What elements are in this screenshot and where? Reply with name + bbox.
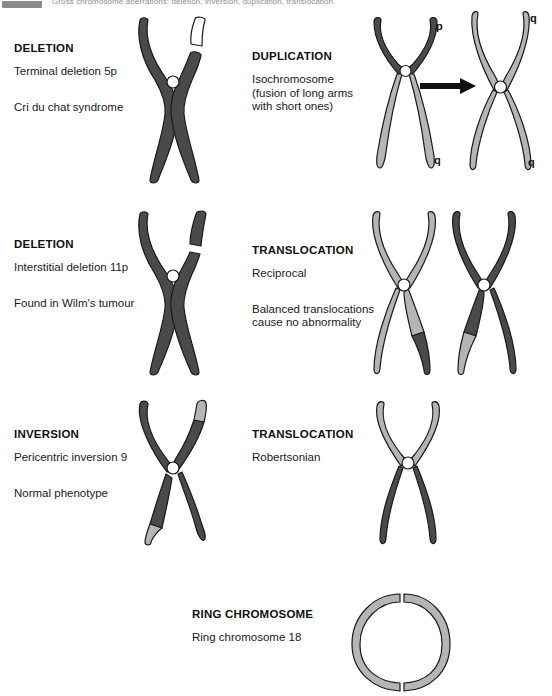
q-arm-left bbox=[377, 74, 402, 168]
centromere bbox=[398, 279, 410, 291]
q-arm-right-translocated-segment bbox=[412, 332, 430, 375]
q-arm-lower-left bbox=[470, 90, 497, 170]
q-arm-left-proximal bbox=[150, 474, 172, 528]
chromosome-ring bbox=[348, 592, 454, 696]
chromatid-right-proximal bbox=[190, 211, 206, 246]
section-duplication: DUPLICATION Isochromosome (fusion of lon… bbox=[252, 50, 392, 114]
label-q-arm-bottom: q bbox=[528, 156, 535, 168]
p-arm-left bbox=[373, 212, 403, 288]
section-line-3: with short ones) bbox=[252, 100, 392, 114]
p-arm-left bbox=[377, 402, 406, 466]
q-arm-upper-right bbox=[502, 12, 529, 90]
section-heading: DUPLICATION bbox=[252, 50, 392, 62]
chromosome-reciprocal-a bbox=[368, 208, 442, 384]
q-arm-right bbox=[490, 288, 516, 374]
chromosome-reciprocal-b bbox=[448, 208, 522, 384]
label-q-arm-top: q bbox=[530, 12, 537, 24]
label-q-arm: q bbox=[434, 154, 441, 166]
centromere bbox=[400, 66, 411, 77]
label-p-arm: p bbox=[436, 20, 443, 32]
p-arm-right bbox=[485, 212, 515, 288]
p-arm-right bbox=[410, 402, 439, 466]
p-arm-right bbox=[405, 212, 435, 288]
chromosome-terminal-deletion bbox=[132, 14, 218, 190]
centromere bbox=[478, 279, 490, 291]
p-arm-right-inverted-segment bbox=[194, 400, 206, 422]
q-arm-left bbox=[380, 466, 403, 544]
p-arm-left bbox=[139, 401, 172, 472]
ring-arc-right bbox=[404, 594, 450, 691]
q-arm-left-proximal bbox=[464, 288, 484, 336]
chromosome-robertsonian bbox=[370, 398, 450, 552]
chromosome-interstitial-deletion bbox=[132, 208, 218, 382]
q-arm-upper-left bbox=[472, 12, 499, 90]
q-arm-left bbox=[374, 288, 400, 374]
q-arm-lower-right bbox=[504, 90, 531, 170]
section-line-1: Isochromosome bbox=[252, 73, 392, 87]
q-arm-right bbox=[178, 472, 205, 540]
p-arm-left bbox=[453, 212, 483, 288]
q-arm-right bbox=[413, 466, 436, 544]
q-arm-left-translocated-segment bbox=[458, 332, 476, 375]
chromosome-isochromosome: q q bbox=[468, 8, 534, 180]
chromatid-right-truncated bbox=[171, 52, 201, 183]
centromere bbox=[167, 76, 179, 88]
deleted-fragment bbox=[191, 17, 205, 46]
q-arm-right-proximal bbox=[404, 288, 424, 336]
centromere bbox=[167, 270, 179, 282]
p-arm-left bbox=[374, 18, 405, 76]
p-arm-right bbox=[406, 18, 437, 76]
ring-arc-left bbox=[352, 594, 400, 691]
caption-text: Gross chromosome aberrations: deletion, … bbox=[52, 0, 336, 6]
section-line-2: (fusion of long arms bbox=[252, 87, 392, 101]
caption-tag-block bbox=[2, 1, 42, 8]
centromere bbox=[167, 462, 179, 474]
chromosome-inversion bbox=[132, 398, 218, 550]
centromere bbox=[495, 81, 507, 93]
centromere bbox=[402, 457, 414, 469]
q-arm-left-inverted-segment bbox=[145, 524, 162, 545]
